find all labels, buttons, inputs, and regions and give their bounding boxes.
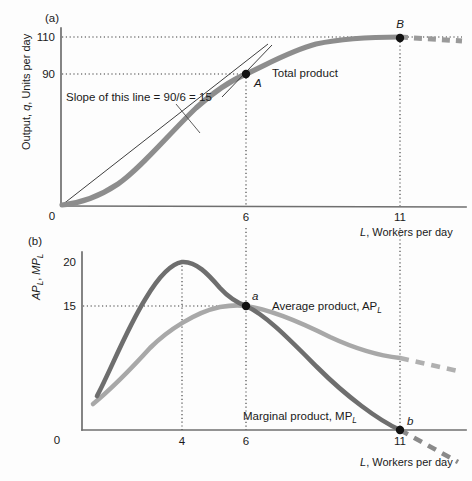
panel-a-x-axis-title: L, Workers per day (360, 226, 453, 238)
panel-a-total-product-dashed (400, 37, 462, 41)
panel-a-slope-ray (62, 44, 268, 205)
panel-b-xtick-4: 4 (179, 435, 186, 447)
panel-b-ytick-15: 15 (63, 300, 76, 312)
panel-a-x-axis (61, 206, 466, 207)
panel-a-point-A-label: A (253, 77, 262, 89)
panel-a-point-A-marker (242, 70, 250, 78)
panel-b-point-b-label: b (407, 415, 414, 427)
panel-b-average-product-dashed (400, 358, 462, 372)
panel-b-tag: (b) (28, 235, 42, 247)
panel-b-y-axis-title: APL, MPL (30, 254, 45, 301)
panel-b-xtick-6: 6 (243, 435, 249, 447)
panel-a-xtick-6: 6 (243, 211, 249, 223)
panel-a-ytick-110: 110 (37, 31, 55, 43)
panel-a-total-product-curve (62, 37, 400, 205)
production-function-figure: (a) Output, q, Units per day 110 90 0 6 … (0, 0, 472, 481)
panel-a-point-B-marker (396, 34, 404, 42)
figure-container: (a) Output, q, Units per day 110 90 0 6 … (0, 0, 472, 481)
panel-b-point-b-marker (396, 426, 404, 434)
panel-b-x-axis-title: L, Workers per day (360, 456, 453, 468)
panel-b-marginal-product-label: Marginal product, MPL (243, 410, 357, 425)
panel-b-point-a-marker (242, 302, 250, 310)
panel-a-tag: (a) (45, 12, 59, 24)
panel-b-average-product-label: Average product, APL (272, 300, 382, 315)
panel-b-ytick-20: 20 (63, 256, 76, 268)
panel-a-slope-annotation: Slope of this line = 90/6 = 15 (66, 91, 212, 103)
panel-a-y-axis-title: Output, q, Units per day (20, 33, 32, 150)
panel-a: (a) Output, q, Units per day 110 90 0 6 … (20, 12, 466, 238)
panel-b-origin-label: 0 (54, 434, 60, 446)
panel-a-point-B-label: B (396, 18, 404, 30)
panel-b-point-a-label: a (252, 290, 258, 302)
panel-a-origin-label: 0 (49, 210, 55, 222)
panel-b-xtick-11: 11 (394, 435, 406, 447)
panel-b: (b) APL, MPL 20 15 0 4 6 11 L, Workers p… (28, 228, 466, 468)
panel-a-ytick-90: 90 (42, 68, 55, 80)
panel-a-total-product-label: Total product (272, 67, 339, 79)
panel-a-xtick-11: 11 (394, 211, 406, 223)
